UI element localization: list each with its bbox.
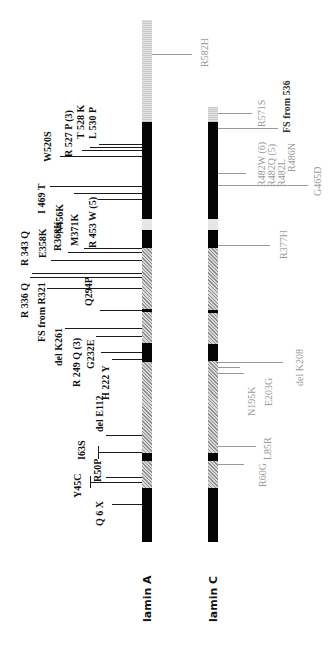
- tick-del-k208: [218, 362, 283, 363]
- tick-l530p: [99, 144, 142, 145]
- lamin-a-tail-unique-region: [142, 20, 152, 122]
- label-r486n: R486N: [287, 143, 297, 172]
- tick-y45c: [90, 482, 142, 483]
- label-t528k: T 528 K: [76, 105, 86, 139]
- tick-t528k: [90, 147, 142, 148]
- label-fs-536: FS from 536: [282, 80, 292, 133]
- lamin-c-hatched-region: [208, 461, 218, 488]
- label-r377h: R377H: [279, 230, 289, 259]
- tick-g232e: [101, 352, 142, 353]
- label-r336q: R 336 Q: [20, 283, 30, 318]
- lamin-c-head-domain: [208, 488, 218, 542]
- lamin-c-rod-segment: [208, 453, 218, 461]
- tick-i63s: [98, 452, 142, 453]
- label-e358k: E358K: [38, 229, 48, 258]
- lamin-a-head-domain: [142, 488, 152, 542]
- label-q294p: Q294P: [84, 277, 94, 306]
- lamin-a-hatched-region: [142, 248, 152, 343]
- tick-e203g: [218, 367, 240, 368]
- lamin-c-hatched-region: [208, 248, 218, 344]
- tick-h222y: [112, 359, 142, 360]
- label-e203g: E203G: [264, 378, 274, 406]
- label-fs-r321: FS from R321: [37, 282, 47, 342]
- lamin-a-thin-band: [142, 309, 152, 312]
- label-r571s: R571S: [257, 100, 267, 127]
- tick-q6x: [112, 504, 142, 505]
- lamin-a-rod-segment: [142, 230, 152, 248]
- tick-q294p: [100, 310, 142, 311]
- tick-fs-r321: [47, 288, 142, 289]
- tick-n195k: [218, 373, 244, 374]
- tick-i469t: [50, 186, 142, 187]
- lamin-a-linker: [142, 219, 152, 230]
- lamin-a-rod-segment: [142, 453, 152, 461]
- tick-n456k: [74, 193, 142, 194]
- label-i469t: I 469 T: [37, 184, 47, 214]
- tick-r249q: [96, 336, 142, 337]
- lamin-c-linker: [208, 219, 218, 230]
- label-g465d: G465D: [313, 167, 323, 196]
- label-r368k: R368K: [53, 221, 63, 251]
- label-del-k208: del K208: [295, 349, 305, 386]
- label-del-e112: del E112: [95, 396, 105, 432]
- label-m371k: M371K: [70, 214, 80, 246]
- label-l85r: L85R: [263, 437, 273, 460]
- tick-m371k: [84, 248, 142, 249]
- tick-r377h: [218, 245, 270, 246]
- lamin-c-title: lamin C: [207, 576, 220, 622]
- lamin-c-coil-2b: [208, 122, 218, 219]
- lamin-a-title: lamin A: [141, 575, 154, 622]
- label-r50p: R50P: [93, 459, 103, 482]
- lamin-a-rod-segment: [142, 343, 152, 362]
- label-i63s: I63S: [77, 441, 87, 460]
- tick-r582h: [152, 54, 192, 55]
- label-r249q: R 249 Q (3): [72, 338, 82, 387]
- lamin-a-coil-2b: [142, 122, 152, 219]
- tick-r571s: [218, 113, 252, 114]
- tick-r50p: [106, 477, 142, 478]
- label-del-k261: del K261: [54, 328, 64, 366]
- label-l530p: L 530 P: [88, 107, 98, 139]
- tick-r60g: [218, 464, 244, 465]
- label-n195k: N195K: [247, 387, 257, 416]
- tick-l85r: [218, 446, 256, 447]
- label-r527p: R 527 P (3): [64, 110, 74, 157]
- label-y45c: Y45C: [73, 474, 83, 498]
- lamin-c-rod-segment: [208, 344, 218, 361]
- lamin-c-tail-unique-region: [208, 107, 218, 122]
- tick-r482: [218, 173, 246, 174]
- tick-r343q: [32, 273, 142, 274]
- label-r453w: R 453 W (5): [88, 197, 98, 248]
- lamin-mutation-diagram: R582H L 530 P T 528 K R 527 P (3) W520S …: [0, 0, 329, 648]
- tick-r453w: [98, 199, 142, 200]
- tick-r368k: [68, 252, 142, 253]
- lamin-c-hatched-region: [208, 361, 218, 453]
- tick-del-e112: [106, 435, 142, 436]
- label-r60g: R60G: [258, 463, 268, 487]
- label-r582h: R582H: [200, 38, 210, 67]
- tick-r527p: [82, 150, 142, 151]
- tick-e358k: [51, 260, 142, 261]
- lamin-a-hatched-region: [142, 362, 152, 453]
- lamin-c-thin-band: [208, 310, 218, 313]
- label-r343q: R 343 Q: [20, 231, 30, 266]
- lamin-c-rod-segment: [208, 230, 218, 248]
- lamin-a-hatched-region: [142, 461, 152, 488]
- tick-y45c-connector: [90, 476, 91, 488]
- label-g232e: G232E: [86, 340, 96, 369]
- label-w520s: W520S: [43, 131, 53, 162]
- tick-i63s-connector: [98, 446, 99, 459]
- tick-del-k261: [65, 328, 142, 329]
- label-q6x: Q 6 X: [95, 501, 105, 526]
- tick-fs-536: [218, 128, 278, 129]
